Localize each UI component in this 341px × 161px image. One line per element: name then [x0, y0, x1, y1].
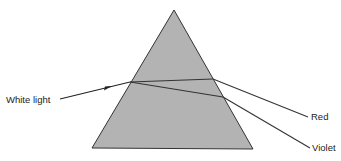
white-light-ray — [60, 82, 130, 99]
prism — [92, 10, 253, 149]
label-red: Red — [311, 112, 328, 122]
label-violet: Violet — [312, 143, 336, 153]
diagram-canvas — [0, 0, 341, 161]
label-white-light: White light — [6, 95, 50, 105]
prism-diagram: White light Red Violet — [0, 0, 341, 161]
